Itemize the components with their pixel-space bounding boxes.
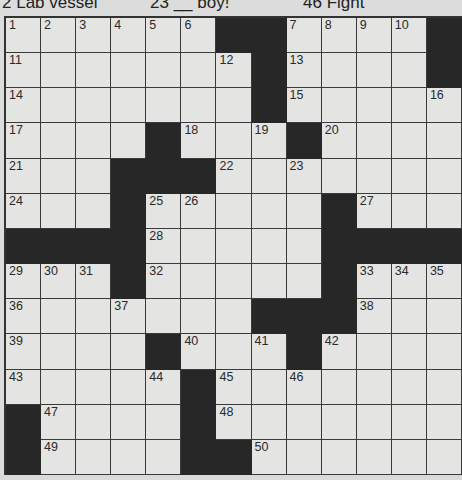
answer-cell[interactable] — [357, 53, 392, 88]
answer-cell[interactable]: 7 — [287, 18, 322, 53]
answer-cell[interactable] — [76, 405, 111, 440]
answer-cell[interactable] — [181, 299, 216, 334]
answer-cell[interactable] — [146, 440, 181, 475]
answer-cell[interactable] — [111, 53, 146, 88]
answer-cell[interactable] — [287, 264, 322, 299]
answer-cell[interactable] — [216, 299, 251, 334]
answer-cell[interactable] — [322, 370, 357, 405]
answer-cell[interactable]: 18 — [181, 123, 216, 158]
answer-cell[interactable]: 12 — [216, 53, 251, 88]
answer-cell[interactable] — [216, 264, 251, 299]
answer-cell[interactable] — [216, 229, 251, 264]
answer-cell[interactable] — [322, 405, 357, 440]
answer-cell[interactable] — [76, 370, 111, 405]
answer-cell[interactable]: 29 — [6, 264, 41, 299]
answer-cell[interactable]: 5 — [146, 18, 181, 53]
answer-cell[interactable] — [357, 159, 392, 194]
answer-cell[interactable] — [287, 194, 322, 229]
answer-cell[interactable] — [76, 299, 111, 334]
answer-cell[interactable] — [392, 53, 427, 88]
answer-cell[interactable] — [76, 194, 111, 229]
answer-cell[interactable]: 36 — [6, 299, 41, 334]
answer-cell[interactable]: 35 — [427, 264, 462, 299]
answer-cell[interactable] — [181, 88, 216, 123]
answer-cell[interactable]: 43 — [6, 370, 41, 405]
answer-cell[interactable]: 34 — [392, 264, 427, 299]
answer-cell[interactable] — [427, 194, 462, 229]
answer-cell[interactable]: 33 — [357, 264, 392, 299]
answer-cell[interactable] — [181, 264, 216, 299]
answer-cell[interactable] — [146, 88, 181, 123]
answer-cell[interactable] — [322, 53, 357, 88]
answer-cell[interactable] — [252, 194, 287, 229]
answer-cell[interactable] — [287, 229, 322, 264]
answer-cell[interactable] — [322, 88, 357, 123]
answer-cell[interactable]: 49 — [41, 440, 76, 475]
answer-cell[interactable] — [392, 159, 427, 194]
answer-cell[interactable] — [392, 299, 427, 334]
answer-cell[interactable] — [76, 123, 111, 158]
answer-cell[interactable]: 3 — [76, 18, 111, 53]
answer-cell[interactable]: 30 — [41, 264, 76, 299]
answer-cell[interactable] — [41, 53, 76, 88]
answer-cell[interactable]: 6 — [181, 18, 216, 53]
answer-cell[interactable]: 27 — [357, 194, 392, 229]
answer-cell[interactable]: 45 — [216, 370, 251, 405]
answer-cell[interactable]: 13 — [287, 53, 322, 88]
answer-cell[interactable] — [357, 88, 392, 123]
answer-cell[interactable]: 19 — [252, 123, 287, 158]
answer-cell[interactable] — [357, 123, 392, 158]
answer-cell[interactable] — [322, 440, 357, 475]
answer-cell[interactable] — [287, 440, 322, 475]
answer-cell[interactable] — [111, 88, 146, 123]
answer-cell[interactable] — [181, 53, 216, 88]
answer-cell[interactable] — [76, 53, 111, 88]
answer-cell[interactable] — [111, 405, 146, 440]
answer-cell[interactable]: 42 — [322, 334, 357, 369]
answer-cell[interactable] — [146, 405, 181, 440]
answer-cell[interactable] — [41, 88, 76, 123]
answer-cell[interactable] — [111, 123, 146, 158]
answer-cell[interactable] — [392, 123, 427, 158]
answer-cell[interactable] — [76, 334, 111, 369]
answer-cell[interactable] — [357, 334, 392, 369]
answer-cell[interactable]: 17 — [6, 123, 41, 158]
answer-cell[interactable] — [252, 159, 287, 194]
answer-cell[interactable]: 31 — [76, 264, 111, 299]
answer-cell[interactable] — [216, 88, 251, 123]
answer-cell[interactable]: 16 — [427, 88, 462, 123]
answer-cell[interactable] — [357, 405, 392, 440]
answer-cell[interactable]: 50 — [252, 440, 287, 475]
answer-cell[interactable] — [41, 299, 76, 334]
answer-cell[interactable] — [427, 123, 462, 158]
answer-cell[interactable] — [76, 159, 111, 194]
answer-cell[interactable] — [252, 405, 287, 440]
answer-cell[interactable]: 2 — [41, 18, 76, 53]
answer-cell[interactable]: 1 — [6, 18, 41, 53]
answer-cell[interactable]: 24 — [6, 194, 41, 229]
answer-cell[interactable] — [216, 123, 251, 158]
answer-cell[interactable]: 20 — [322, 123, 357, 158]
answer-cell[interactable]: 8 — [322, 18, 357, 53]
answer-cell[interactable] — [392, 405, 427, 440]
answer-cell[interactable] — [252, 264, 287, 299]
answer-cell[interactable] — [427, 299, 462, 334]
answer-cell[interactable] — [392, 334, 427, 369]
answer-cell[interactable]: 39 — [6, 334, 41, 369]
answer-cell[interactable] — [111, 370, 146, 405]
answer-cell[interactable] — [427, 159, 462, 194]
answer-cell[interactable] — [427, 405, 462, 440]
answer-cell[interactable]: 41 — [252, 334, 287, 369]
answer-cell[interactable] — [357, 370, 392, 405]
answer-cell[interactable]: 26 — [181, 194, 216, 229]
answer-cell[interactable]: 9 — [357, 18, 392, 53]
answer-cell[interactable]: 15 — [287, 88, 322, 123]
answer-cell[interactable] — [216, 334, 251, 369]
answer-cell[interactable]: 25 — [146, 194, 181, 229]
answer-cell[interactable] — [287, 405, 322, 440]
answer-cell[interactable] — [41, 159, 76, 194]
answer-cell[interactable]: 37 — [111, 299, 146, 334]
answer-cell[interactable]: 4 — [111, 18, 146, 53]
answer-cell[interactable] — [76, 88, 111, 123]
answer-cell[interactable]: 48 — [216, 405, 251, 440]
